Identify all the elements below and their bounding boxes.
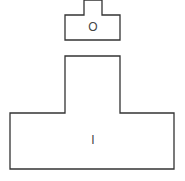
- large-t-label: I: [91, 133, 94, 147]
- large-t-shape: I: [10, 56, 174, 169]
- diagram-canvas: O I: [0, 0, 185, 181]
- small-t-shape: O: [65, 0, 120, 40]
- small-t-label: O: [88, 20, 97, 34]
- large-t-outline: [10, 56, 174, 169]
